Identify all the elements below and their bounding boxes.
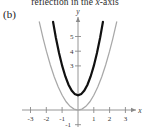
- plot-area: x y -3 -2 -1 1 2 3: [0, 0, 150, 135]
- x-tick-label-2: 2: [108, 115, 112, 123]
- y-tick-label-3: 3: [70, 62, 74, 70]
- x-axis-label: x: [137, 106, 142, 115]
- y-tick-label-4: 4: [70, 48, 74, 56]
- y-axis: y: [75, 7, 80, 128]
- x-tick-label-1: 1: [92, 115, 96, 123]
- x-axis: x: [22, 106, 142, 115]
- x-tick-label-neg3: -3: [28, 115, 34, 123]
- y-axis-arrow: [76, 17, 80, 22]
- y-tick-label-5: 5: [70, 33, 74, 41]
- y-tick-label-neg1: -1: [65, 121, 71, 129]
- x-tick-label-3: 3: [124, 115, 128, 123]
- x-tick-label-neg2: -2: [43, 115, 49, 123]
- y-axis-label: y: [75, 7, 80, 16]
- x-axis-arrow: [131, 108, 136, 112]
- figure-panel-b: reflection in the x-axis (b) x y -3 -2 -…: [0, 0, 150, 135]
